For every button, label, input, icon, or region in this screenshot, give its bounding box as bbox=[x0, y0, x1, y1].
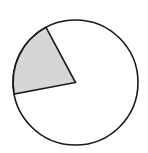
fraction-circle-diagram bbox=[0, 0, 148, 153]
